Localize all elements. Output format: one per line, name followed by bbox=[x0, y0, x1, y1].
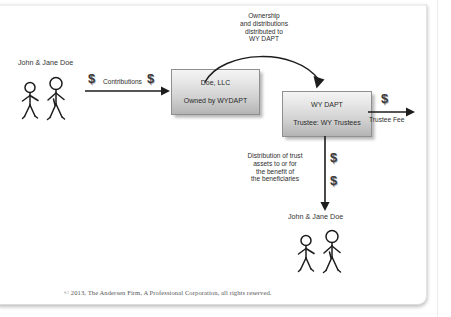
diagram-canvas: John & Jane Doe bbox=[0, 4, 426, 304]
stick-figures-icon bbox=[292, 225, 356, 277]
trustee-fee-label: Trustee Fee bbox=[369, 116, 404, 124]
screenshot-root: John & Jane Doe bbox=[0, 0, 451, 317]
wy-dapt-subtitle: Trustee: WY Trustees bbox=[283, 119, 371, 127]
trust-distribution-label: Distribution of trust assets to or for t… bbox=[231, 152, 319, 183]
wy-dapt-title: WY DAPT bbox=[283, 101, 371, 109]
node-wy-dapt[interactable]: WY DAPT Trustee: WY Trustees bbox=[282, 91, 372, 137]
grantors-label: John & Jane Doe bbox=[18, 59, 73, 67]
document-page: John & Jane Doe bbox=[0, 4, 427, 305]
copyright-notice: © 2013, The Andersen Firm, A Professiona… bbox=[64, 289, 272, 296]
beneficiaries-figure-group bbox=[292, 225, 356, 277]
beneficiaries-label: John & Jane Doe bbox=[288, 213, 343, 221]
contributions-arrow bbox=[85, 86, 171, 98]
money-icon-contributions-right: $ bbox=[147, 72, 154, 85]
stick-figures-icon bbox=[16, 72, 80, 124]
money-icon-distribution-upper: $ bbox=[330, 151, 337, 164]
ownership-distributions-label: Ownership and distributions distributed … bbox=[209, 12, 319, 43]
contributions-label: Contributions bbox=[103, 78, 142, 86]
money-icon-trustee-fee: $ bbox=[381, 92, 388, 105]
money-icon-contributions-left: $ bbox=[88, 72, 95, 85]
money-icon-distribution-lower: $ bbox=[330, 174, 337, 187]
grantors-figure-group bbox=[16, 72, 80, 124]
page-right-margin bbox=[437, 0, 451, 317]
